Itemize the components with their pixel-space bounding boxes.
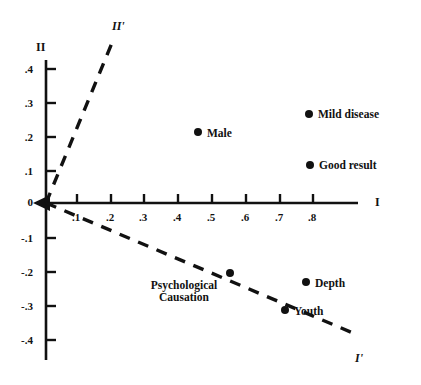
y-tick-label: -.2 xyxy=(8,267,33,278)
reference-line-label-ii-prime: II' xyxy=(112,20,125,32)
y-tick-label: .1 xyxy=(8,166,33,177)
y-tick-label: -.4 xyxy=(8,335,33,346)
reference-line-label-i-prime: I' xyxy=(355,352,363,364)
y-tick-label: .2 xyxy=(8,132,33,143)
plot-axes-and-lines xyxy=(0,0,421,385)
scatter-plot-figure: II I II' I' .4 .3 .2 .1 0 -.1 -.2 -.3 -.… xyxy=(0,0,421,385)
data-point-good-result[interactable] xyxy=(306,161,314,169)
x-axis-title: I xyxy=(375,196,380,208)
data-point-psychological-causation[interactable] xyxy=(226,269,234,277)
data-point-label-mild-disease: Mild disease xyxy=(318,108,379,120)
data-point-label-depth: Depth xyxy=(315,277,345,289)
y-tick-label: .3 xyxy=(8,98,33,109)
y-tick-label: -.1 xyxy=(8,233,33,244)
y-tick-label: 0 xyxy=(8,197,33,208)
data-point-depth[interactable] xyxy=(302,278,310,286)
data-point-label-male: Male xyxy=(207,127,232,139)
data-point-mild-disease[interactable] xyxy=(305,110,313,118)
y-tick-label: .4 xyxy=(8,64,33,75)
data-point-label-good-result: Good result xyxy=(319,159,377,171)
reference-line-ii-prime xyxy=(46,38,114,203)
x-tick-label: .3 xyxy=(139,212,147,223)
y-tick-label: -.3 xyxy=(8,301,33,312)
x-tick-label: .8 xyxy=(308,212,316,223)
x-tick-label: .5 xyxy=(207,212,215,223)
data-point-label-psychological-causation: Psychological Causation xyxy=(142,279,226,304)
y-axis-title: II xyxy=(36,41,45,53)
x-tick-label: .1 xyxy=(72,212,80,223)
data-point-label-youth: Youth xyxy=(294,305,323,317)
data-point-youth[interactable] xyxy=(281,306,289,314)
x-tick-label: .4 xyxy=(173,212,181,223)
x-axis-ticks xyxy=(77,194,313,203)
data-point-male[interactable] xyxy=(194,128,202,136)
x-tick-label: .2 xyxy=(106,212,114,223)
x-tick-label: .6 xyxy=(241,212,249,223)
x-tick-label: .7 xyxy=(275,212,283,223)
